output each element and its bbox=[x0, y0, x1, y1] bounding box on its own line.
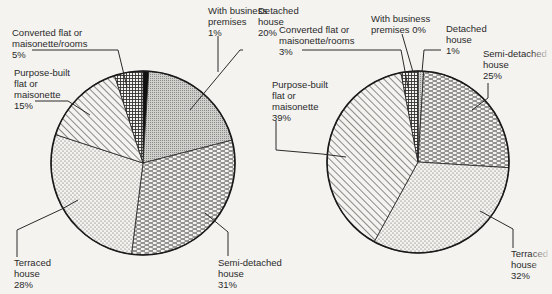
data-label-line: Purpose-built bbox=[14, 67, 70, 78]
data-label-line: maisonette bbox=[14, 89, 60, 100]
data-label-detached-house: Detachedhouse1% bbox=[446, 23, 487, 56]
chart-figure: With businesspremises1%Detachedhouse20%S… bbox=[0, 0, 552, 294]
data-label-line: Semi-detached bbox=[218, 257, 282, 268]
data-label-purpose-built-flat-or-maisonette: Purpose-builtflat ormaisonette15% bbox=[14, 67, 70, 111]
data-label-line: With business bbox=[371, 13, 430, 24]
data-label-line: 15% bbox=[14, 100, 34, 111]
leader-line-detached-house bbox=[422, 50, 441, 72]
data-label-line: 5% bbox=[12, 49, 26, 60]
data-label-line: 25% bbox=[483, 70, 503, 81]
data-label-line: house bbox=[218, 268, 244, 279]
data-label-line: premises bbox=[208, 16, 247, 27]
pie-chart-2 bbox=[327, 71, 509, 253]
data-label-line: premises 0% bbox=[371, 24, 426, 35]
data-label-line: Detached bbox=[446, 23, 487, 34]
data-label-line: flat or bbox=[14, 78, 38, 89]
data-label-line: 39% bbox=[272, 112, 292, 123]
page-edge-fade bbox=[530, 0, 552, 294]
pie-charts: With businesspremises1%Detachedhouse20%S… bbox=[0, 0, 552, 294]
data-label-line: maisonette bbox=[272, 101, 318, 112]
data-label-purpose-built-flat-or-maisonette: Purpose-builtflat ormaisonette39% bbox=[272, 79, 328, 123]
data-label-line: 3% bbox=[279, 46, 293, 57]
data-label-line: 28% bbox=[14, 279, 34, 290]
data-label-line: Purpose-built bbox=[272, 79, 328, 90]
data-label-line: 31% bbox=[218, 279, 238, 290]
data-label-line: Terraced bbox=[14, 257, 51, 268]
leader-line-detached-house bbox=[190, 50, 243, 110]
data-label-line: house bbox=[14, 268, 40, 279]
data-label-line: maisonette/rooms bbox=[12, 38, 88, 49]
data-label-line: 1% bbox=[446, 45, 460, 56]
data-label-converted-flat-or-maisonette-rooms: Converted flat ormaisonette/rooms3% bbox=[279, 24, 355, 57]
data-label-line: Detached bbox=[258, 5, 299, 16]
data-label-line: 20% bbox=[258, 27, 278, 38]
pie-slice-semi-detached-house bbox=[418, 71, 509, 168]
data-label-with-business-premises: With businesspremises 0% bbox=[371, 13, 430, 35]
data-label-line: house bbox=[446, 34, 472, 45]
data-label-line: house bbox=[483, 59, 509, 70]
data-label-semi-detached-house: Semi-detachedhouse31% bbox=[218, 257, 282, 290]
data-label-converted-flat-or-maisonette-rooms: Converted flat ormaisonette/rooms5% bbox=[12, 27, 88, 60]
data-label-line: Converted flat or bbox=[279, 24, 349, 35]
data-label-line: Converted flat or bbox=[12, 27, 82, 38]
data-label-line: 1% bbox=[208, 27, 222, 38]
data-label-line: flat or bbox=[272, 90, 296, 101]
data-label-terraced-house: Terracedhouse28% bbox=[14, 257, 51, 290]
data-label-line: maisonette/rooms bbox=[279, 35, 355, 46]
pie-chart-1 bbox=[51, 71, 235, 255]
data-label-line: 32% bbox=[511, 270, 531, 281]
